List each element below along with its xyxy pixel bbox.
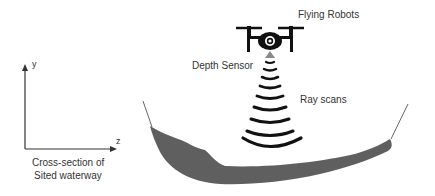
riverbank-lines bbox=[143, 101, 408, 139]
drone-icon bbox=[236, 26, 304, 52]
flying-robots-label: Flying Robots bbox=[298, 9, 359, 21]
waterway-diagram: Flying Robots Depth Sensor Ray scans y z… bbox=[0, 0, 435, 196]
depth-sensor-icon bbox=[265, 51, 275, 58]
y-axis-label: y bbox=[32, 58, 37, 70]
caption-line-2: Sited waterway bbox=[34, 170, 102, 182]
ray-scans-label: Ray scans bbox=[300, 94, 347, 106]
ray-scans bbox=[243, 62, 301, 147]
z-axis-label: z bbox=[116, 135, 121, 147]
depth-sensor-label: Depth Sensor bbox=[192, 60, 253, 72]
caption-line-1: Cross-section of bbox=[32, 157, 104, 169]
axes bbox=[22, 64, 117, 152]
